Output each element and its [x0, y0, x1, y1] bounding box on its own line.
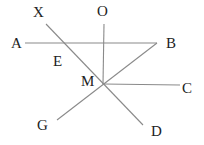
point-label-x: X — [33, 4, 44, 20]
point-label-a: A — [11, 35, 22, 51]
segment-om — [103, 24, 104, 84]
point-label-o: O — [97, 3, 108, 19]
point-label-m: M — [81, 73, 94, 89]
segments-group — [25, 24, 180, 125]
labels-group: XOABEMCGD — [11, 3, 192, 139]
segment-xd — [46, 24, 143, 125]
point-label-d: D — [151, 123, 162, 139]
geometry-diagram: XOABEMCGD — [0, 0, 204, 145]
point-label-g: G — [37, 117, 48, 133]
point-label-e: E — [53, 53, 62, 69]
point-label-c: C — [182, 80, 192, 96]
segment-mc — [103, 84, 180, 85]
point-label-b: B — [166, 35, 176, 51]
segment-bg — [57, 43, 157, 120]
